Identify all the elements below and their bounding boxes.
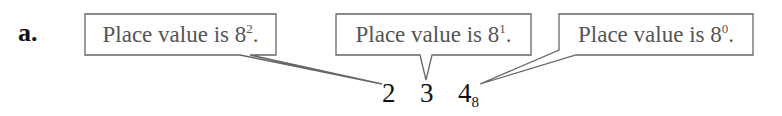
digit-3: 3: [420, 78, 434, 108]
callout-3-text: Place value is 80.: [559, 14, 753, 55]
digit-4-with-base: 48: [458, 78, 479, 108]
base-subscript: 8: [472, 94, 480, 110]
callout-2-text: Place value is 81.: [336, 14, 531, 55]
digit-2: 2: [382, 78, 396, 108]
callout-1-text: Place value is 82.: [85, 14, 276, 55]
